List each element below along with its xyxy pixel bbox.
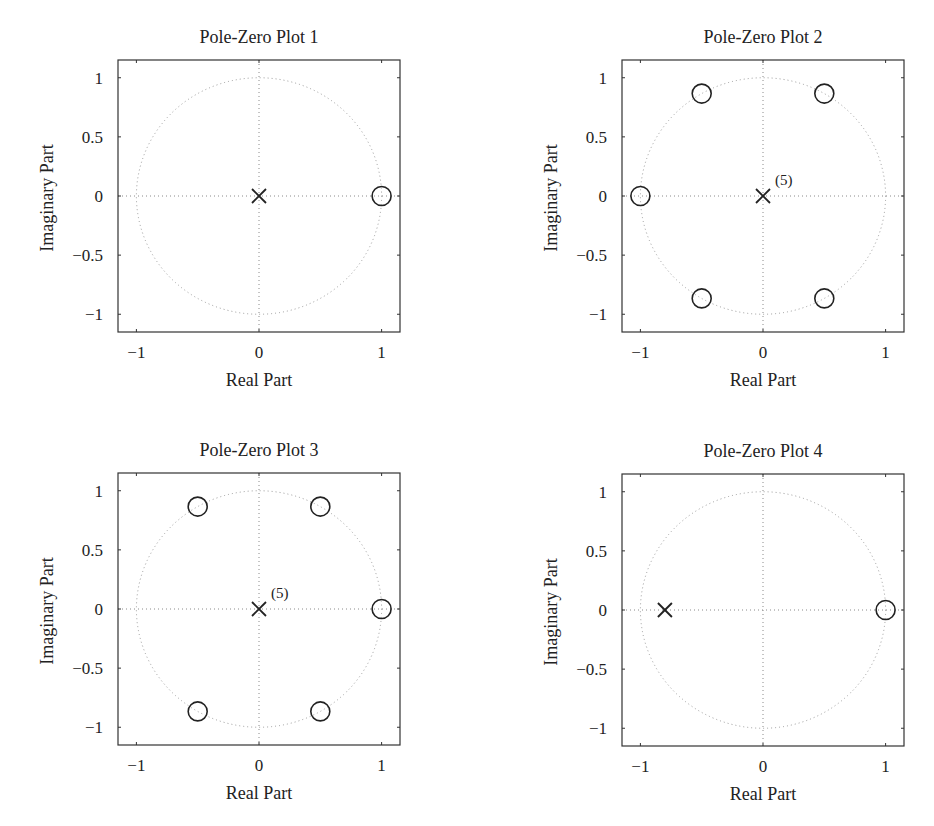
x-axis-label: Real Part: [663, 784, 863, 805]
y-tick-label: 0: [547, 602, 607, 619]
y-tick-label: −0.5: [547, 661, 607, 678]
y-tick-label: 0.5: [547, 543, 607, 560]
x-tick-label: −1: [610, 758, 670, 775]
y-tick-label: −1: [547, 720, 607, 737]
plot-area: [0, 0, 934, 826]
x-tick-label: 1: [856, 758, 916, 775]
y-tick-label: 1: [547, 484, 607, 501]
plot-title: Pole-Zero Plot 4: [643, 441, 883, 462]
pole-zero-plot-4: Pole-Zero Plot 4Real PartImaginary Part−…: [0, 0, 467, 413]
pole-marker-icon: [658, 603, 672, 617]
x-tick-label: 0: [733, 758, 793, 775]
